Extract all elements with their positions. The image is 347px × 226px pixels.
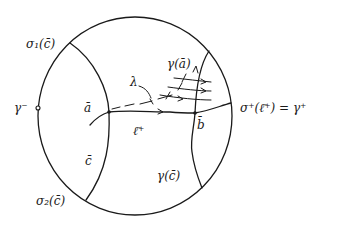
lambda-dash-1 — [112, 107, 120, 109]
geodesic-l-plus — [90, 103, 231, 125]
flow-cross-1 — [182, 74, 186, 82]
label-sigma2-c: σ₂(c̄) — [36, 194, 65, 208]
lambda-pointer — [139, 86, 151, 98]
label-gamma-a: γ(ā) — [167, 57, 191, 71]
point-b-bar — [193, 111, 197, 115]
label-c-bar: c̄ — [85, 154, 92, 168]
label-lambda: λ — [129, 75, 138, 89]
arrow-up-icon — [193, 66, 198, 73]
label-l-plus: ℓ̄⁺ — [133, 124, 144, 138]
label-a-bar: ā — [84, 101, 91, 115]
point-a-bar — [107, 110, 111, 114]
label-sigma-plus: σ⁺(ℓ̄⁺) = γ⁺ — [240, 101, 306, 115]
arrow-right-icon — [178, 96, 183, 101]
point-gamma-minus — [36, 106, 40, 110]
label-b-bar: b̄ — [197, 116, 205, 132]
label-gamma-c: γ(c̄) — [157, 169, 181, 183]
boundary-circle — [38, 17, 232, 215]
label-gamma-minus: γ⁻ — [14, 101, 28, 115]
lambda-dash-3 — [140, 101, 152, 104]
lambda-dash-2 — [125, 104, 134, 106]
curve-c-bar — [70, 43, 109, 200]
label-sigma1-c: σ₁(c̄) — [26, 37, 55, 51]
diagram-canvas: σ₁(c̄) σ₂(c̄) γ⁻ ā c̄ λ ℓ̄⁺ b̄ γ(ā) γ(c̄… — [0, 0, 347, 226]
